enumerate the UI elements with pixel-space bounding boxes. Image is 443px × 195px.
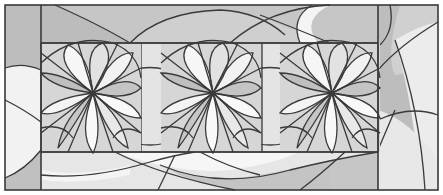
- lotus-flower-2: [161, 41, 261, 154]
- left-panel: [5, 5, 41, 190]
- bottom-band: [41, 152, 378, 190]
- top-band: [41, 5, 378, 43]
- right-panel: [378, 5, 438, 190]
- stained-glass-artwork: [0, 0, 443, 195]
- pillar-right: [262, 43, 282, 152]
- lotus-flower-3: [280, 41, 380, 154]
- lotus-flower-1: [41, 41, 141, 154]
- pillar-left: [141, 43, 162, 152]
